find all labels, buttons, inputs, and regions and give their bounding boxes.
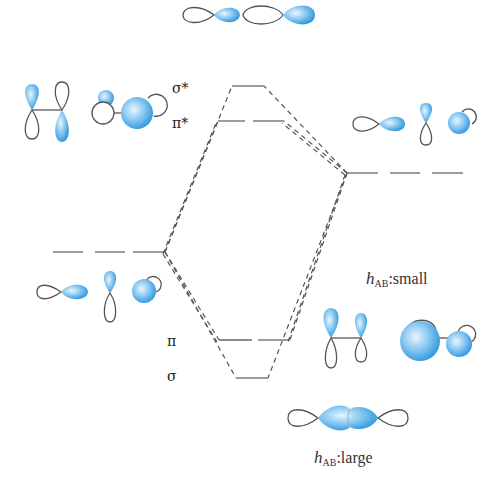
- pi-star-p-orbitals-icon: [25, 82, 69, 142]
- correlation-lines: [163, 86, 347, 378]
- hab-small-annotation: hAB:small: [366, 270, 428, 289]
- sigma-star-orbital-icon: [183, 6, 315, 25]
- pi-bonding-p-orbitals-icon: [323, 308, 367, 368]
- sigma-label: σ: [167, 369, 177, 383]
- right-atom-p-sigma-icon: [353, 117, 405, 131]
- pi-star-end-orbitals-icon: [92, 90, 167, 129]
- hab-large-sub: AB: [323, 457, 337, 468]
- left-atom-p-sigma-icon: [37, 285, 88, 299]
- pi-label: π: [167, 334, 176, 348]
- hab-large-annotation: hAB:large: [314, 449, 373, 468]
- hab-small-sub: AB: [375, 278, 389, 289]
- sigma-bonding-orbital-icon: [288, 406, 408, 431]
- mo-diagram: [0, 0, 491, 479]
- left-atom-p-end-icon: [132, 277, 161, 303]
- hab-small-h: h: [366, 269, 375, 288]
- hab-small-text: :small: [388, 270, 427, 287]
- hab-large-text: :large: [336, 449, 372, 466]
- right-atom-p-pi-icon: [420, 103, 432, 145]
- sigma-star-label: σ*: [172, 81, 189, 95]
- pi-bonding-end-orbitals-icon: [400, 320, 476, 361]
- hab-large-h: h: [314, 448, 323, 467]
- right-atom-p-end-icon: [448, 109, 476, 134]
- left-atom-p-pi-icon: [104, 271, 116, 322]
- pi-star-label: π*: [172, 116, 188, 130]
